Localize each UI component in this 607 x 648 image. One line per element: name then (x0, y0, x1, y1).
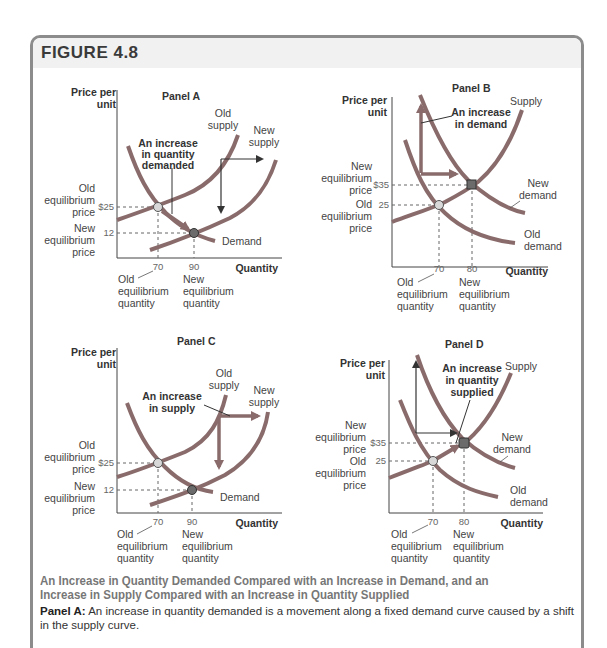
svg-text:70: 70 (434, 263, 445, 274)
svg-text:equilibrium: equilibrium (183, 285, 234, 297)
svg-text:supply: supply (208, 119, 239, 131)
svg-text:demand: demand (524, 240, 562, 252)
svg-text:quantity: quantity (391, 552, 429, 564)
svg-text:supply: supply (249, 396, 280, 408)
caption-title: An Increase in Quantity Demanded Compare… (40, 574, 537, 602)
svg-text:Old: Old (356, 198, 373, 210)
svg-text:equilibrium: equilibrium (315, 467, 366, 479)
svg-text:price: price (349, 184, 372, 196)
svg-text:demand: demand (493, 443, 531, 455)
svg-text:in quantity: in quantity (445, 374, 498, 386)
svg-text:70: 70 (153, 261, 164, 272)
svg-text:unit: unit (366, 369, 386, 381)
caption-body: Panel A: An increase in quantity demande… (40, 604, 580, 632)
svg-text:equilibrium: equilibrium (453, 540, 504, 552)
svg-text:equilibrium: equilibrium (44, 194, 95, 206)
svg-text:equilibrium: equilibrium (315, 431, 366, 443)
svg-text:80: 80 (467, 263, 478, 274)
panel-a: Panel A Price per unit Old supply New su… (44, 86, 282, 309)
svg-text:Quantity: Quantity (505, 265, 548, 277)
svg-text:Old: Old (79, 439, 96, 451)
svg-text:price: price (343, 479, 366, 491)
new-equilibrium-point (190, 229, 199, 238)
svg-text:equilibrium: equilibrium (391, 540, 442, 552)
svg-text:$35: $35 (370, 437, 386, 448)
svg-text:New: New (351, 160, 372, 172)
svg-text:Supply: Supply (505, 360, 538, 372)
svg-text:price: price (343, 443, 366, 455)
svg-text:equilibrium: equilibrium (182, 540, 233, 552)
svg-text:New: New (253, 384, 274, 396)
svg-text:Supply: Supply (510, 95, 543, 107)
svg-text:An increase: An increase (142, 390, 202, 402)
svg-text:Old: Old (524, 228, 541, 240)
svg-text:Old: Old (510, 484, 527, 496)
y-axis-label-2: unit (97, 98, 117, 110)
svg-text:Panel B: Panel B (452, 82, 491, 94)
caption-panel-text: An increase in quantity demanded is a mo… (40, 605, 574, 631)
caption-panel-label: Panel A: (40, 605, 86, 617)
svg-text:equilibrium: equilibrium (321, 210, 372, 222)
svg-text:An increase: An increase (451, 106, 511, 118)
svg-text:quantity: quantity (117, 552, 155, 564)
svg-text:supplied: supplied (450, 386, 493, 398)
panel-a-title: Panel A (162, 90, 201, 102)
svg-text:in demand: in demand (455, 118, 508, 130)
y-axis-label: Price per (71, 86, 116, 98)
svg-text:New: New (183, 273, 204, 285)
svg-text:Old: Old (79, 182, 96, 194)
svg-text:New: New (527, 177, 548, 189)
svg-text:equilibrium: equilibrium (117, 540, 168, 552)
svg-text:70: 70 (428, 516, 439, 527)
svg-text:demand: demand (510, 496, 548, 508)
svg-text:$25: $25 (98, 201, 114, 212)
svg-text:70: 70 (153, 516, 164, 527)
svg-text:quantity: quantity (453, 552, 491, 564)
panel-b: Panel B Price per unit Supply An increas… (321, 82, 562, 312)
svg-text:price: price (72, 463, 95, 475)
svg-text:Demand: Demand (222, 235, 262, 247)
svg-text:Old: Old (216, 367, 233, 379)
svg-text:Panel D: Panel D (445, 338, 484, 350)
svg-text:New: New (182, 528, 203, 540)
figure-caption: An Increase in Quantity Demanded Compare… (40, 574, 580, 632)
svg-text:Old: Old (215, 107, 232, 119)
svg-text:Old: Old (118, 273, 135, 285)
panel-c: Panel C Price per unit Old supply New su… (44, 335, 282, 564)
svg-text:unit: unit (368, 106, 388, 118)
svg-text:equilibrium: equilibrium (44, 451, 95, 463)
svg-text:Old: Old (117, 528, 134, 540)
svg-text:quantity: quantity (118, 297, 156, 309)
svg-text:price: price (349, 222, 372, 234)
svg-text:New: New (459, 276, 480, 288)
svg-text:Demand: Demand (220, 491, 260, 503)
svg-text:90: 90 (189, 261, 200, 272)
svg-text:25: 25 (375, 455, 386, 466)
svg-text:Quantity: Quantity (235, 262, 278, 274)
svg-text:equilibrium: equilibrium (321, 172, 372, 184)
svg-text:supply: supply (249, 136, 280, 148)
svg-text:$25: $25 (98, 457, 114, 468)
panel-d: Panel D Price per unit Supply An increas… (315, 338, 548, 564)
svg-text:quantity: quantity (397, 300, 435, 312)
svg-text:price: price (72, 504, 95, 516)
svg-text:price: price (72, 206, 95, 218)
svg-text:New: New (74, 222, 95, 234)
svg-text:New: New (74, 480, 95, 492)
svg-text:in supply: in supply (149, 402, 195, 414)
svg-text:equilibrium: equilibrium (118, 285, 169, 297)
svg-text:quantity: quantity (182, 552, 220, 564)
svg-text:New: New (501, 431, 522, 443)
svg-text:price: price (72, 246, 95, 258)
svg-text:unit: unit (97, 358, 117, 370)
svg-text:Price per: Price per (340, 357, 385, 369)
svg-text:Quantity: Quantity (500, 517, 543, 529)
svg-text:Price per: Price per (342, 94, 387, 106)
svg-text:12: 12 (103, 227, 114, 238)
svg-text:demanded: demanded (142, 159, 195, 171)
svg-text:Quantity: Quantity (235, 517, 278, 529)
svg-text:equilibrium: equilibrium (397, 288, 448, 300)
svg-text:25: 25 (378, 199, 389, 210)
svg-text:Old: Old (391, 528, 408, 540)
